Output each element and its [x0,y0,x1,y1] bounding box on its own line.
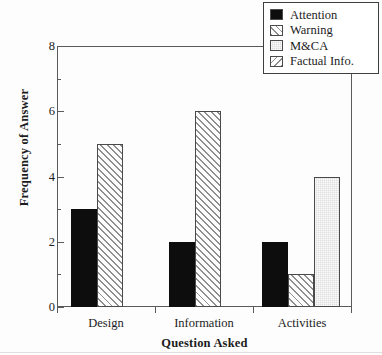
bar-activities-warning [288,274,314,307]
x-tick-left [57,307,58,313]
y-axis-tick-labels: 0 2 4 6 8 [29,46,55,307]
legend-item-warning: Warning [270,23,373,39]
legend-label-factual-info: Factual Info. [290,55,354,68]
x-axis-title: Question Asked [57,336,352,351]
x-axis-tick-labels: Design Information Activities [57,316,352,334]
x-tick-right [351,307,352,313]
x-axis-ticks [57,307,352,315]
legend-label-mca: M&CA [290,40,328,53]
legend-swatch-attention-icon [270,9,283,20]
scan-artifact-line [0,352,382,353]
legend-label-warning: Warning [290,24,333,37]
legend-item-attention: Attention [270,7,373,23]
bar-information-warning [195,111,221,307]
bar-activities-attention [262,242,288,307]
x-label-information: Information [174,316,234,331]
legend-label-attention: Attention [290,9,337,22]
x-tick-divider-2 [253,307,254,313]
bar-design-warning [97,144,123,307]
y-tick-label-2: 2 [33,234,55,249]
chart-legend: Attention Warning M&CA Factual Info. [263,2,379,74]
legend-swatch-warning-icon [270,25,283,36]
legend-swatch-mca-icon [270,40,283,51]
x-label-activities: Activities [278,316,327,331]
bar-design-attention [71,209,97,307]
legend-swatch-factual-info-icon [270,56,283,67]
x-label-design: Design [88,316,123,331]
bar-information-attention [169,242,195,307]
y-tick-label-6: 6 [33,104,55,119]
legend-item-factual-info: Factual Info. [270,54,373,70]
y-tick-label-4: 4 [33,169,55,184]
bar-activities-mca [314,177,340,308]
chart-figure: Frequency of Answer 0 2 4 6 8 [0,0,382,355]
y-tick-label-0: 0 [33,300,55,315]
bars-layer [57,46,352,307]
x-tick-divider-1 [155,307,156,313]
y-tick-label-8: 8 [33,39,55,54]
legend-item-mca: M&CA [270,38,373,54]
